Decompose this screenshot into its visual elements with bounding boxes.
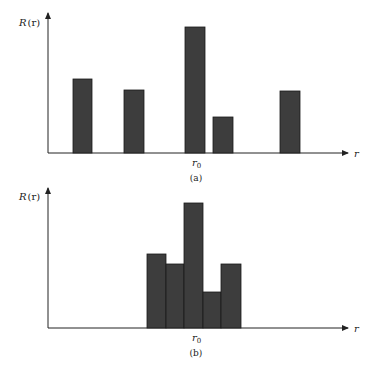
panel-b: R(r) r r0 (b): [18, 188, 360, 358]
bar-5: [280, 91, 300, 153]
bar-1: [73, 79, 92, 153]
bar-4: [213, 117, 233, 153]
bar-1: [147, 254, 166, 328]
bar-3: [184, 203, 203, 328]
bar-2: [166, 264, 184, 328]
x-axis-label: r: [354, 148, 360, 159]
bar-3: [185, 27, 205, 153]
caption-a: (a): [190, 173, 202, 183]
x-tick-r0: r0: [192, 332, 201, 345]
bars-b: [147, 203, 241, 328]
x-axis-label: r: [354, 323, 360, 334]
figure: R(r) r r0 (a) R(r) r r0 (b): [0, 0, 368, 368]
bars-a: [73, 27, 300, 153]
caption-b: (b): [190, 348, 203, 358]
x-tick-r0: r0: [192, 157, 201, 170]
y-axis-label: R(r): [18, 191, 40, 202]
bar-4: [203, 292, 221, 328]
bar-5: [221, 264, 241, 328]
y-axis-label: R(r): [18, 17, 40, 28]
panel-a: R(r) r r0 (a): [18, 13, 360, 183]
bar-2: [124, 90, 144, 153]
